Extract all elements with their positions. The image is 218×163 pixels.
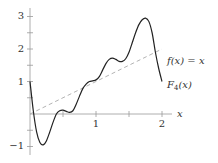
x-tick-label-1: 1 xyxy=(93,118,99,129)
identity-line xyxy=(30,49,162,114)
x-axis-label: x xyxy=(177,108,183,119)
f4-label-arg: (x) xyxy=(178,79,192,90)
identity-label: f(x) = x xyxy=(166,55,205,66)
x-tick-label-2: 2 xyxy=(159,118,165,129)
y-tick-label-2: 2 xyxy=(18,43,24,54)
function-plot: 3 2 1 −1 1 2 x f(x) = x F4(x) xyxy=(0,0,218,163)
y-tick-label-3: 3 xyxy=(18,10,24,21)
y-tick-label-1: 1 xyxy=(18,76,24,87)
y-tick-label-neg1: −1 xyxy=(9,140,24,151)
f4-label: F4(x) xyxy=(166,79,192,92)
